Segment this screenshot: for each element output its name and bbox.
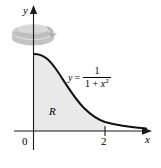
curve-equation-label: y = 1 1 + x2 <box>68 66 111 89</box>
x-tick-label-2: 2 <box>101 136 107 147</box>
equation-numerator: 1 <box>90 66 103 77</box>
denominator-lead: 1 + <box>85 78 101 89</box>
denominator-exponent: 2 <box>105 76 109 84</box>
equation-lhs: y <box>68 72 72 83</box>
rotation-about-y-axis-arrow <box>12 24 57 46</box>
equation-equals-sign: = <box>74 72 80 83</box>
origin-label: 0 <box>22 136 28 147</box>
figure-region-revolved-about-y-axis: y x 0 2 R y = 1 1 + x2 <box>0 0 161 168</box>
y-axis-label: y <box>23 5 28 16</box>
equation-denominator: 1 + x2 <box>83 78 111 90</box>
x-axis-label: x <box>145 134 150 145</box>
equation-fraction: 1 1 + x2 <box>83 66 111 89</box>
region-label-R: R <box>49 106 56 117</box>
